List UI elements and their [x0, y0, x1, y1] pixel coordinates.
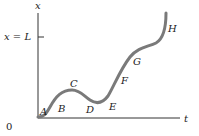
point-label-e: E [108, 101, 117, 112]
point-label-b: B [57, 103, 65, 114]
point-label-a: A [39, 106, 47, 117]
point-label-c: C [70, 78, 78, 89]
point-label-g: G [133, 56, 141, 67]
point-label-d: D [85, 104, 94, 115]
l-tick-label: x = L [4, 31, 31, 42]
point-label-h: H [167, 23, 177, 34]
position-curve [38, 13, 166, 117]
position-time-graph: x t 0 x = L A B C D E F G H [0, 0, 199, 136]
point-label-f: F [120, 75, 129, 86]
t-axis-label: t [184, 113, 189, 124]
origin-label: 0 [6, 121, 12, 132]
y-axis-label: x [35, 0, 41, 11]
